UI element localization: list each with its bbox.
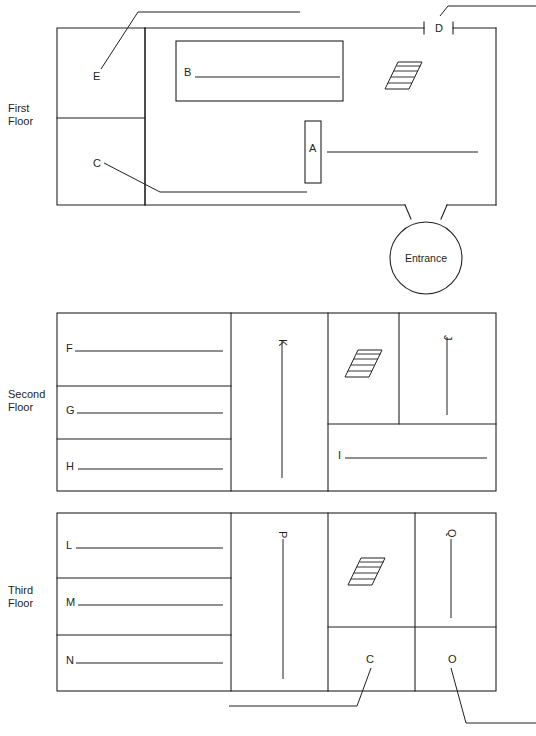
second-floor-outline — [57, 313, 496, 491]
entrance-label: Entrance — [405, 252, 447, 264]
entrance-neck-right — [441, 205, 447, 219]
stairs-icon-third-floor — [348, 558, 385, 585]
third-floor-label-line2: Floor — [8, 597, 33, 609]
room-b-label: B — [184, 66, 191, 78]
room-m-label: M — [66, 596, 75, 608]
second-floor-label-line2: Floor — [8, 401, 33, 413]
room-p-label: P — [277, 531, 289, 538]
room-k-label: K — [277, 339, 289, 347]
room-a-label: A — [309, 142, 317, 154]
room-b-rect — [176, 41, 343, 101]
room-c-third-leader — [229, 668, 371, 706]
room-c-label: C — [93, 157, 101, 169]
room-l-label: L — [66, 539, 72, 551]
room-h-label: H — [66, 460, 74, 472]
room-c-leader — [104, 163, 307, 192]
room-e-label: E — [93, 70, 100, 82]
room-i-label: I — [338, 449, 341, 461]
room-q-label: Q — [446, 529, 458, 538]
room-c-third-label: C — [366, 653, 374, 665]
second-floor-label-line1: Second — [8, 388, 45, 400]
room-n-label: N — [66, 654, 74, 666]
third-floor-group: L M N P Q C O Third Floor — [8, 513, 536, 723]
first-floor-label-line1: First — [8, 102, 29, 114]
first-floor-group: Entrance B A E C D First Floor — [8, 6, 536, 294]
room-f-label: F — [66, 342, 73, 354]
room-d-label: D — [435, 22, 443, 34]
third-floor-label-line1: Third — [8, 584, 33, 596]
room-d-leader — [440, 6, 536, 16]
first-floor-label-line2: Floor — [8, 115, 33, 127]
stairs-icon-first-floor — [385, 62, 422, 89]
room-o-leader — [451, 668, 536, 723]
room-o-label: O — [448, 653, 457, 665]
floor-plan-diagram: Entrance B A E C D First Floor — [0, 0, 536, 736]
room-j-label: J — [442, 335, 454, 341]
entrance-neck-left — [405, 205, 411, 219]
room-g-label: G — [66, 404, 75, 416]
second-floor-group: F G H K J I Second Floor — [8, 313, 496, 491]
third-floor-outline — [57, 513, 496, 691]
first-floor-outline — [57, 28, 145, 205]
stairs-icon-second-floor — [345, 350, 382, 377]
